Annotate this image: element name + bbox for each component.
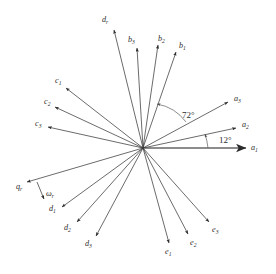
vector-label-e2: e2 xyxy=(190,238,197,248)
vector-label-dr: dr xyxy=(102,15,109,25)
vector-line-b2 xyxy=(143,45,158,148)
vector-line-d2 xyxy=(77,148,143,222)
vector-line-qr xyxy=(27,148,143,182)
vector-label-a3: a3 xyxy=(234,94,241,104)
angle-labels-group: 72°12° xyxy=(182,110,232,145)
vector-label-c3: c3 xyxy=(35,119,42,129)
vector-label-b2: b2 xyxy=(158,34,165,44)
vector-label-e1: e1 xyxy=(165,247,172,257)
vector-line-d1 xyxy=(62,148,143,207)
vector-line-a3 xyxy=(143,102,228,148)
angle-label-angle-72: 72° xyxy=(182,110,195,120)
vector-label-d3: d3 xyxy=(85,239,92,249)
vector-line-b1 xyxy=(143,52,176,148)
vector-label-e3: e3 xyxy=(212,225,219,235)
vector-line-b3 xyxy=(137,48,143,148)
vector-line-d3 xyxy=(96,148,143,236)
vector-label-d2: d2 xyxy=(64,223,71,233)
vector-label-d1: d1 xyxy=(49,204,56,214)
angle-label-angle-12: 12° xyxy=(219,135,232,145)
vector-diagram-svg: a1a2a3b1b2b3drc1c2c3qrωrd1d2d3e1e2e3 72°… xyxy=(0,0,276,274)
vector-label-qr: qr xyxy=(16,182,23,192)
vector-line-dr xyxy=(114,30,143,148)
vector-label-b1: b1 xyxy=(179,41,186,51)
vector-label-c2: c2 xyxy=(44,97,51,107)
vector-label-wr: ωr xyxy=(46,189,55,199)
vector-label-a2: a2 xyxy=(242,120,249,130)
vector-label-b3: b3 xyxy=(128,35,135,45)
vector-line-wr xyxy=(37,182,44,199)
vector-line-c1 xyxy=(66,88,143,148)
angle-arc-angle-12 xyxy=(205,134,208,148)
vector-lines-group xyxy=(27,30,246,243)
vector-line-c2 xyxy=(55,107,143,148)
vector-diagram-canvas: a1a2a3b1b2b3drc1c2c3qrωrd1d2d3e1e2e3 72°… xyxy=(0,0,276,274)
vector-label-c1: c1 xyxy=(55,76,62,86)
vector-line-c3 xyxy=(48,127,143,148)
vector-label-a1: a1 xyxy=(251,143,258,153)
